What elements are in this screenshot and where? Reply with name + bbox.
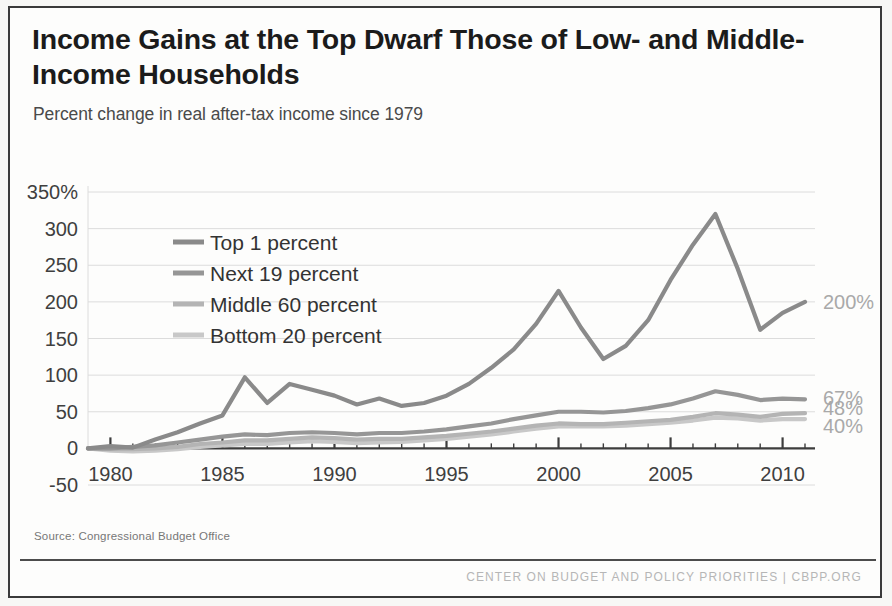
x-axis-tick-label: 1990 bbox=[312, 463, 357, 485]
source-note: Source: Congressional Budget Office bbox=[34, 530, 230, 542]
y-axis-tick-label: 350% bbox=[27, 181, 78, 203]
y-axis-tick-label: 250 bbox=[45, 254, 78, 276]
footer-credit: CENTER ON BUDGET AND POLICY PRIORITIES |… bbox=[466, 570, 862, 584]
line-chart: 350%300250200150100500-50198019851990199… bbox=[10, 8, 884, 600]
y-axis-tick-label: -50 bbox=[49, 474, 78, 496]
legend-label: Bottom 20 percent bbox=[210, 324, 382, 347]
x-axis-tick-label: 1980 bbox=[88, 463, 133, 485]
x-axis-tick-label: 2000 bbox=[536, 463, 581, 485]
y-axis-tick-label: 100 bbox=[45, 364, 78, 386]
y-axis-tick-label: 200 bbox=[45, 291, 78, 313]
series-end-label: 40% bbox=[823, 415, 863, 437]
footer-divider bbox=[20, 559, 876, 561]
plot-area: 350%300250200150100500-50198019851990199… bbox=[10, 8, 884, 600]
y-axis-tick-label: 0 bbox=[67, 437, 78, 459]
figure-frame: Income Gains at the Top Dwarf Those of L… bbox=[8, 6, 882, 598]
series-end-label: 200% bbox=[823, 291, 874, 313]
legend-label: Next 19 percent bbox=[210, 262, 358, 285]
x-axis-tick-label: 1995 bbox=[424, 463, 469, 485]
figure: Income Gains at the Top Dwarf Those of L… bbox=[0, 0, 892, 606]
series-line bbox=[88, 214, 805, 448]
legend: Top 1 percentNext 19 percentMiddle 60 pe… bbox=[173, 231, 382, 347]
legend-label: Top 1 percent bbox=[210, 231, 337, 254]
y-axis-tick-label: 50 bbox=[56, 401, 78, 423]
x-axis-tick-label: 2005 bbox=[648, 463, 693, 485]
y-axis-tick-label: 150 bbox=[45, 328, 78, 350]
legend-label: Middle 60 percent bbox=[210, 293, 377, 316]
end-labels: 200%67%48%40% bbox=[823, 291, 874, 437]
y-axis-tick-label: 300 bbox=[45, 218, 78, 240]
x-axis-tick-label: 2010 bbox=[760, 463, 805, 485]
x-axis-tick-label: 1985 bbox=[200, 463, 245, 485]
